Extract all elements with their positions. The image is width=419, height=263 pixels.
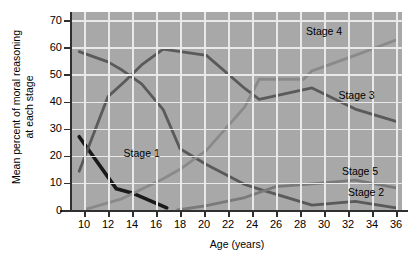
x-tick-label: 26	[264, 218, 288, 230]
gridline-vertical	[156, 12, 158, 210]
gridline-vertical	[180, 12, 182, 210]
plot-area	[72, 12, 402, 210]
x-tick	[156, 211, 158, 217]
x-tick	[180, 211, 182, 217]
x-tick-label: 10	[72, 218, 96, 230]
gridline-vertical	[204, 12, 206, 210]
series-label-stage-1: Stage 1	[124, 147, 160, 159]
gridline-vertical	[228, 12, 230, 210]
x-tick-label: 12	[96, 218, 120, 230]
y-tick-label: 70	[40, 14, 62, 26]
x-tick-label: 22	[216, 218, 240, 230]
x-tick-label: 24	[240, 218, 264, 230]
y-tick-label: 40	[40, 95, 62, 107]
series-label-stage-4: Stage 4	[306, 25, 342, 37]
x-tick	[132, 211, 134, 217]
gridline-vertical	[324, 12, 326, 210]
y-tick	[64, 20, 71, 22]
gridline-vertical	[300, 12, 302, 210]
series-label-stage-5: Stage 5	[342, 165, 378, 177]
x-axis-title: Age (years)	[72, 238, 402, 250]
x-tick	[300, 211, 302, 217]
x-tick	[372, 211, 374, 217]
gridline-horizontal	[72, 129, 402, 131]
y-axis-title-line2: at each stage	[23, 29, 36, 183]
x-tick	[276, 211, 278, 217]
x-tick-label: 30	[312, 218, 336, 230]
y-tick-label-wrap: 40	[38, 95, 62, 107]
series-lines	[72, 12, 402, 210]
y-tick	[64, 47, 71, 49]
x-tick-label: 34	[360, 218, 384, 230]
y-tick-label-wrap: 10	[38, 176, 62, 188]
x-tick-label: 36	[384, 218, 408, 230]
gridline-vertical	[372, 12, 374, 210]
gridline-horizontal	[72, 156, 402, 158]
gridline-vertical	[252, 12, 254, 210]
x-tick	[324, 211, 326, 217]
y-tick	[64, 210, 71, 212]
x-tick	[396, 211, 398, 217]
x-tick	[252, 211, 254, 217]
x-tick-label: 28	[288, 218, 312, 230]
y-tick-label: 30	[40, 122, 62, 134]
gridline-vertical	[84, 12, 86, 210]
y-tick-label-wrap: 20	[38, 149, 62, 161]
y-tick	[64, 183, 71, 185]
y-axis-title-line1: Mean percent of moral reasoning	[10, 29, 23, 183]
x-tick	[228, 211, 230, 217]
x-tick-label: 16	[144, 218, 168, 230]
y-tick-label: 60	[40, 41, 62, 53]
gridline-vertical	[276, 12, 278, 210]
gridline-vertical	[348, 12, 350, 210]
gridline-vertical	[108, 12, 110, 210]
x-tick	[348, 211, 350, 217]
y-tick	[64, 102, 71, 104]
series-label-stage-2: Stage 2	[348, 186, 384, 198]
gridline-vertical	[132, 12, 134, 210]
x-tick-label: 14	[120, 218, 144, 230]
gridline-horizontal	[72, 102, 402, 104]
x-tick	[108, 211, 110, 217]
gridline-horizontal	[72, 47, 402, 49]
y-tick-label: 20	[40, 149, 62, 161]
y-tick	[64, 129, 71, 131]
x-axis-line	[60, 210, 408, 212]
chart-figure: Mean percent of moral reasoning at each …	[0, 0, 419, 263]
x-tick-label: 18	[168, 218, 192, 230]
gridline-horizontal	[72, 20, 402, 22]
y-tick	[64, 74, 71, 76]
y-tick-label-wrap: 60	[38, 41, 62, 53]
gridline-horizontal	[72, 183, 402, 185]
y-tick	[64, 156, 71, 158]
y-axis-line	[70, 12, 72, 210]
x-tick-label: 20	[192, 218, 216, 230]
y-tick-label-wrap: 30	[38, 122, 62, 134]
y-tick-label: 0	[40, 204, 62, 216]
y-tick-label-wrap: 70	[38, 14, 62, 26]
y-tick-label-wrap: 0	[38, 204, 62, 216]
x-tick	[204, 211, 206, 217]
gridline-vertical	[396, 12, 398, 210]
y-tick-label: 10	[40, 176, 62, 188]
x-tick	[84, 211, 86, 217]
x-tick-label: 32	[336, 218, 360, 230]
gridline-horizontal	[72, 74, 402, 76]
y-tick-label-wrap: 50	[38, 68, 62, 80]
series-label-stage-3: Stage 3	[338, 89, 374, 101]
y-tick-label: 50	[40, 68, 62, 80]
